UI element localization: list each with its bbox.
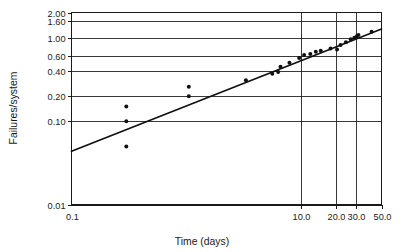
x-tick-label: 0.1 <box>66 212 79 222</box>
data-point <box>276 70 280 74</box>
y-tick-label: 0.20 <box>48 92 66 102</box>
data-point <box>329 47 333 51</box>
data-point <box>270 72 274 76</box>
x-axis-title: Time (days) <box>175 236 229 247</box>
y-tick-label: 0.01 <box>48 201 66 211</box>
data-point <box>356 33 360 37</box>
y-tick-label: 0.10 <box>48 117 66 127</box>
x-tick-label: 30.0 <box>348 212 366 222</box>
data-point <box>187 94 191 98</box>
y-tick-label: 1.60 <box>48 17 66 27</box>
y-tick-label: 1.00 <box>48 34 66 44</box>
data-point <box>124 105 128 109</box>
data-point <box>302 53 306 57</box>
data-point <box>308 52 312 56</box>
data-point <box>335 48 339 52</box>
data-point <box>124 145 128 149</box>
y-axis-title: Failures/system <box>8 72 19 145</box>
data-point <box>278 65 282 69</box>
data-point <box>297 56 301 60</box>
y-tick-label: 0.60 <box>48 52 66 62</box>
data-point <box>287 61 291 65</box>
loglog-scatter-plot: 2.001.601.000.600.400.200.100.01 0.110.0… <box>0 0 406 252</box>
data-point <box>187 85 191 89</box>
data-point <box>244 78 248 82</box>
data-point <box>314 50 318 54</box>
x-tick-label: 20.0 <box>328 212 346 222</box>
data-point <box>349 37 353 41</box>
chart-figure: 2.001.601.000.600.400.200.100.01 0.110.0… <box>0 0 406 252</box>
data-point <box>339 43 343 47</box>
data-point <box>344 40 348 44</box>
data-point <box>124 119 128 123</box>
y-tick-label: 0.40 <box>48 67 66 77</box>
x-tick-label: 50.0 <box>374 212 392 222</box>
data-point <box>319 49 323 53</box>
data-point <box>370 30 374 34</box>
x-tick-label: 10.0 <box>293 212 311 222</box>
